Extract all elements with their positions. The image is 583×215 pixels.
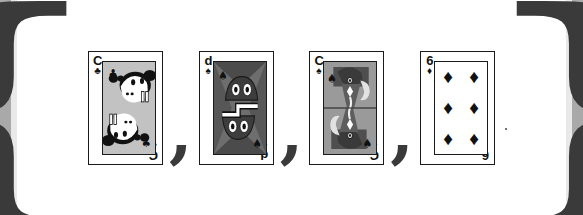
card-4-pip-layout: ♦ ♦ ♦ ♦ ♦ ♦: [434, 61, 488, 155]
diamonds-icon: ♦: [443, 67, 453, 86]
svg-text:♠: ♠: [218, 68, 227, 83]
svg-text:♠: ♠: [363, 136, 373, 151]
card-3-artwork: ♠ ♠: [323, 61, 377, 155]
svg-text:♠: ♠: [252, 136, 261, 151]
close-brace: }: [484, 6, 583, 201]
playing-card-1[interactable]: C ♣ C ♣: [88, 51, 163, 165]
svg-text:♣: ♣: [141, 134, 150, 149]
court-figure-artwork-icon: ♠ ♠: [324, 62, 376, 154]
figure-canvas: { C ♣ C ♣: [0, 0, 583, 215]
mask-artwork-icon: ♠ ♠: [214, 62, 266, 154]
svg-text:♣: ♣: [108, 66, 117, 81]
diamonds-icon: ♦: [469, 98, 479, 117]
svg-text:♠: ♠: [327, 70, 337, 85]
diamonds-icon: ♦: [469, 67, 479, 86]
card-1-artwork: ♣ ♣: [102, 61, 156, 155]
diamonds-icon: ♦: [443, 129, 453, 148]
playing-card-2[interactable]: d ♠ d ♠: [199, 51, 274, 165]
diamonds-icon: ♦: [443, 98, 453, 117]
open-brace: {: [0, 6, 99, 201]
stray-speck: [505, 128, 507, 130]
card-2-artwork: ♠ ♠: [213, 61, 267, 155]
diamonds-icon: ♦: [469, 129, 479, 148]
set-notation-row: { C ♣ C ♣: [30, 0, 553, 215]
cow-artwork-icon: ♣ ♣: [103, 62, 155, 154]
playing-card-3[interactable]: C ♠ C ♠: [309, 51, 384, 165]
